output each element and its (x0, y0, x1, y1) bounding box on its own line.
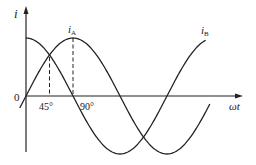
curve-label-i-a: iA (68, 23, 76, 37)
x-axis-label: ωt (229, 100, 241, 112)
x-axis-arrow-icon (235, 94, 243, 99)
x-tick-45: 45° (39, 101, 53, 112)
y-axis-label: i (14, 6, 18, 21)
curve-label-i-b: iB (201, 24, 209, 38)
y-axis-arrow-icon (24, 6, 29, 14)
chart-canvas: i 0 45° 90° ωt iA iB (0, 0, 256, 165)
x-tick-90: 90° (80, 101, 94, 112)
origin-label: 0 (14, 91, 20, 103)
